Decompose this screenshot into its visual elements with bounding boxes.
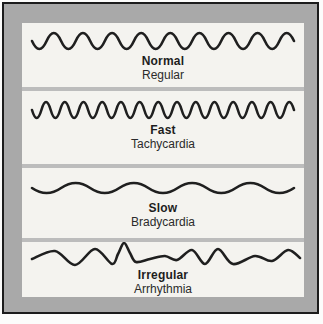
panel-irregular-label: Irregular [22,268,304,282]
panel-normal-label: Normal [22,54,304,68]
slow-waveform [22,175,304,201]
panel-fast-sublabel: Tachycardia [22,137,304,151]
panel-normal-sublabel: Regular [22,68,304,82]
panel-irregular: Irregular Arrhythmia [22,242,304,297]
irregular-waveform [22,242,304,270]
panel-fast-label: Fast [22,123,304,137]
panel-normal: Normal Regular [22,23,304,87]
normal-waveform [22,28,304,54]
panel-slow-sublabel: Bradycardia [22,215,304,229]
figure-frame: Normal Regular Fast Tachycardia Slow Bra… [2,2,319,314]
panel-fast: Fast Tachycardia [22,91,304,164]
panel-irregular-sublabel: Arrhythmia [22,282,304,296]
rhythm-panels: Normal Regular Fast Tachycardia Slow Bra… [22,23,304,297]
fast-waveform [22,97,304,123]
panel-slow-label: Slow [22,201,304,215]
panel-slow: Slow Bradycardia [22,168,304,238]
